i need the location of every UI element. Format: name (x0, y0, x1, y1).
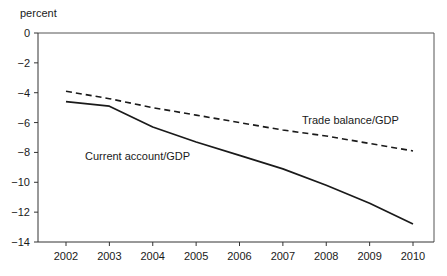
x-axis-tick-label: 2004 (141, 250, 165, 262)
x-axis-tick-label: 2005 (184, 250, 208, 262)
y-axis-tick-label: −12 (11, 206, 30, 218)
x-axis-ticks: 200220032004200520062007200820092010 (54, 242, 425, 262)
x-axis-tick-label: 2007 (271, 250, 295, 262)
y-axis-tick-label: −14 (11, 236, 30, 248)
series-label: Current account/GDP (85, 150, 190, 162)
line-chart-plot: 0−2−4−6−8−10−12−14 200220032004200520062… (0, 0, 447, 276)
series-label: Trade balance/GDP (302, 114, 399, 126)
y-axis-tick-label: −10 (11, 176, 30, 188)
x-axis-tick-label: 2009 (357, 250, 381, 262)
x-axis-tick-label: 2006 (227, 250, 251, 262)
x-axis-tick-label: 2010 (401, 250, 425, 262)
plot-frame (38, 33, 434, 242)
y-axis-ticks: 0−2−4−6−8−10−12−14 (11, 27, 38, 248)
y-axis-tick-label: 0 (24, 27, 30, 39)
y-axis-tick-label: −8 (17, 146, 30, 158)
series-annotations: Trade balance/GDPCurrent account/GDP (85, 114, 399, 162)
y-axis-tick-label: −4 (17, 87, 30, 99)
y-axis-tick-label: −2 (17, 57, 30, 69)
y-axis-tick-label: −6 (17, 117, 30, 129)
x-axis-tick-label: 2002 (54, 250, 78, 262)
x-axis-tick-label: 2008 (314, 250, 338, 262)
x-axis-tick-label: 2003 (97, 250, 121, 262)
chart-container: percent 0−2−4−6−8−10−12−14 2002200320042… (0, 0, 447, 276)
